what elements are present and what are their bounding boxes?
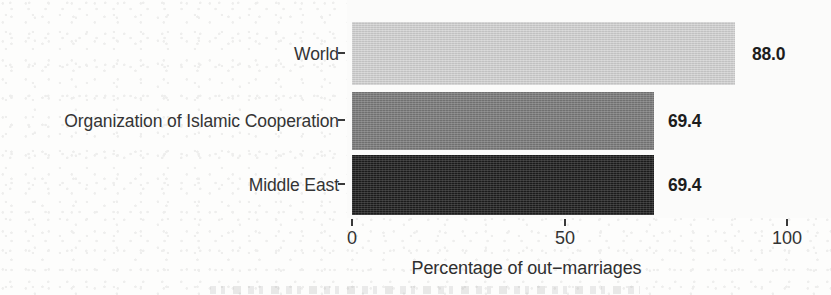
y-tick-organization-of-islamic-cooperation bbox=[338, 119, 345, 121]
x-tick-0 bbox=[351, 219, 353, 226]
bar-texture bbox=[352, 155, 654, 215]
y-tick-world bbox=[338, 52, 345, 54]
bar-world bbox=[352, 22, 735, 85]
y-axis-label-world: World bbox=[294, 44, 339, 65]
bar-texture bbox=[352, 22, 735, 85]
value-label-world: 88.0 bbox=[752, 44, 785, 65]
chart-figure: World Organization of Islamic Cooperatio… bbox=[0, 0, 831, 295]
y-axis-label-organization-of-islamic-cooperation: Organization of Islamic Cooperation bbox=[64, 111, 339, 132]
value-label-organization-of-islamic-cooperation: 69.4 bbox=[668, 111, 701, 132]
x-tick-50 bbox=[564, 219, 566, 226]
scan-bleed-artifact bbox=[210, 286, 640, 294]
bar-middle-east bbox=[352, 155, 654, 215]
x-tick-label-0: 0 bbox=[347, 228, 357, 249]
plot-area bbox=[347, 0, 831, 218]
x-tick-label-100: 100 bbox=[772, 228, 802, 249]
bar-organization-of-islamic-cooperation bbox=[352, 92, 654, 150]
value-label-middle-east: 69.4 bbox=[668, 175, 701, 196]
bar-texture bbox=[352, 92, 654, 150]
y-tick-middle-east bbox=[338, 183, 345, 185]
x-axis-title: Percentage of out−marriages bbox=[0, 258, 831, 279]
y-axis-label-middle-east: Middle East bbox=[249, 175, 339, 196]
x-tick-100 bbox=[786, 219, 788, 226]
x-tick-label-50: 50 bbox=[555, 228, 575, 249]
